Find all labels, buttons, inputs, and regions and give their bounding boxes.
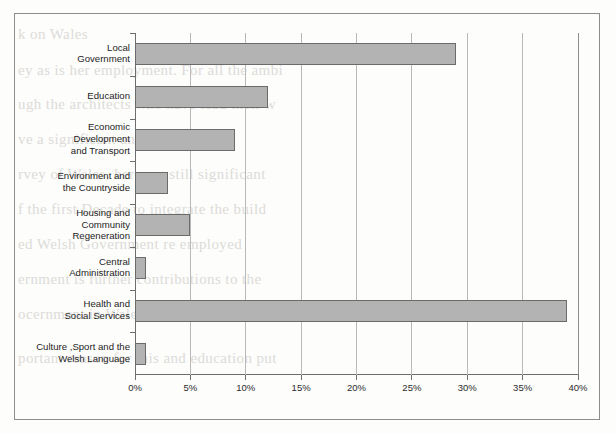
- category-label-line: Central: [18, 256, 130, 268]
- gridline: [190, 33, 191, 375]
- category-label-line: Development: [18, 133, 130, 145]
- x-axis-tick-label: 30%: [458, 382, 477, 393]
- y-axis-category-label: Education: [18, 90, 130, 102]
- category-label-line: and Transport: [18, 145, 130, 157]
- gridline: [522, 33, 523, 375]
- y-axis-tick: [130, 204, 135, 205]
- x-axis-tick-label: 20%: [347, 382, 366, 393]
- category-label-line: Local: [18, 42, 130, 54]
- category-label-line: Economic: [18, 121, 130, 133]
- bar[interactable]: [135, 214, 190, 236]
- gridline: [356, 33, 357, 375]
- category-label-line: Social Services: [18, 310, 130, 322]
- y-axis-tick: [130, 290, 135, 291]
- y-axis-category-label: Health andSocial Services: [18, 298, 130, 321]
- gridline: [245, 33, 246, 375]
- x-axis-tick: [578, 375, 579, 380]
- y-axis-category-label: EconomicDevelopmentand Transport: [18, 121, 130, 156]
- bar-chart: 0%5%10%15%20%25%30%35%40% LocalGovernmen…: [0, 0, 616, 434]
- gridline: [411, 33, 412, 375]
- x-axis-tick: [135, 375, 136, 380]
- bar[interactable]: [135, 43, 456, 65]
- x-axis-tick-label: 0%: [128, 382, 142, 393]
- x-axis-tick: [245, 375, 246, 380]
- x-axis-tick: [522, 375, 523, 380]
- x-axis-tick-label: 25%: [402, 382, 421, 393]
- category-label-line: Culture ,Sport and the: [18, 341, 130, 353]
- x-axis-tick: [301, 375, 302, 380]
- category-label-line: Education: [18, 90, 130, 102]
- y-axis-category-label: LocalGovernment: [18, 42, 130, 65]
- bar[interactable]: [135, 343, 146, 365]
- y-axis-category-label: Culture ,Sport and theWelsh Language: [18, 341, 130, 364]
- x-axis-tick-label: 5%: [184, 382, 198, 393]
- bar[interactable]: [135, 172, 168, 194]
- bar[interactable]: [135, 129, 235, 151]
- y-axis-category-label: Housing andCommunityRegeneration: [18, 207, 130, 242]
- category-label-line: Health and: [18, 298, 130, 310]
- category-label-line: Administration: [18, 267, 130, 279]
- y-axis-category-label: Environment andthe Countryside: [18, 170, 130, 193]
- x-axis-tick-label: 10%: [236, 382, 255, 393]
- x-axis-tick-label: 40%: [568, 382, 587, 393]
- y-axis-tick: [130, 119, 135, 120]
- x-axis-tick-label: 35%: [513, 382, 532, 393]
- category-label-line: Environment and: [18, 170, 130, 182]
- x-axis-tick: [411, 375, 412, 380]
- category-label-line: Government: [18, 53, 130, 65]
- y-axis-tick: [130, 76, 135, 77]
- category-label-line: Regeneration: [18, 230, 130, 242]
- y-axis-category-label: CentralAdministration: [18, 256, 130, 279]
- y-axis-tick: [130, 247, 135, 248]
- gridline: [301, 33, 302, 375]
- y-axis-tick: [130, 161, 135, 162]
- x-axis-tick: [190, 375, 191, 380]
- category-label-line: Housing and: [18, 207, 130, 219]
- x-axis-tick-label: 15%: [292, 382, 311, 393]
- gridline: [578, 33, 579, 375]
- bar[interactable]: [135, 300, 567, 322]
- y-axis-tick: [130, 332, 135, 333]
- gridline: [467, 33, 468, 375]
- bar[interactable]: [135, 257, 146, 279]
- category-label-line: Welsh Language: [18, 353, 130, 365]
- x-axis-tick: [356, 375, 357, 380]
- category-label-line: the Countryside: [18, 182, 130, 194]
- category-label-line: Community: [18, 219, 130, 231]
- bar[interactable]: [135, 86, 268, 108]
- y-axis-tick: [130, 33, 135, 34]
- x-axis-tick: [467, 375, 468, 380]
